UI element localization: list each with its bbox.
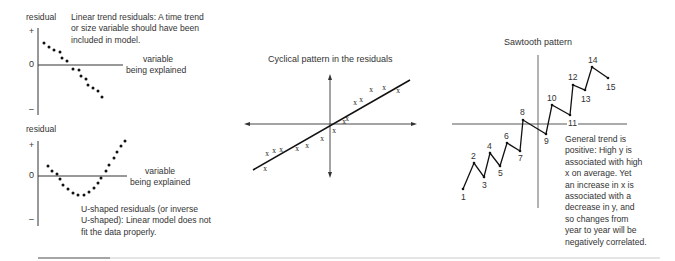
cyclical-residual-plot: xxx xxx xxx xxx xxx	[244, 74, 417, 178]
linear-xlabel-line1: variable	[143, 54, 173, 64]
point-label-7: 7	[518, 153, 523, 163]
ushaped-tick-minus: –	[29, 214, 34, 224]
point-label-12: 12	[568, 72, 578, 82]
sawtooth-title: Sawtooth pattern	[504, 37, 572, 47]
svg-text:x: x	[265, 149, 269, 158]
linear-tick-minus: –	[29, 104, 34, 114]
point-label-5: 5	[498, 168, 503, 178]
ushaped-ylabel: residual	[26, 124, 56, 134]
arrow-up-icon	[328, 74, 332, 80]
point-label-8: 8	[520, 107, 525, 117]
point-label-1: 1	[461, 192, 466, 202]
point-label-9: 9	[544, 136, 549, 146]
arrow-right-icon	[411, 122, 417, 126]
ushaped-xlabel-line2: being explained	[130, 177, 190, 187]
linear-xlabel-line2: being explained	[126, 65, 186, 75]
residual-points	[43, 42, 104, 99]
ushaped-tick-plus: +	[29, 140, 34, 150]
svg-text:x: x	[345, 114, 349, 123]
point-label-10: 10	[547, 93, 557, 103]
svg-text:x: x	[305, 141, 309, 150]
trend-line	[253, 80, 410, 170]
linear-tick-plus: +	[29, 26, 34, 36]
svg-text:x: x	[396, 86, 400, 95]
arrow-left-icon	[244, 122, 250, 126]
svg-text:x: x	[332, 126, 336, 135]
residual-points	[47, 140, 127, 197]
point-label-15: 15	[606, 82, 616, 92]
linear-tick-zero: 0	[29, 59, 34, 69]
point-label-14: 14	[588, 55, 598, 65]
svg-text:x: x	[295, 144, 299, 153]
svg-text:x: x	[359, 95, 363, 104]
svg-text:x: x	[263, 164, 267, 173]
svg-text:x: x	[382, 83, 386, 92]
svg-text:x: x	[369, 85, 373, 94]
point-label-4: 4	[487, 141, 492, 151]
svg-text:x: x	[279, 145, 283, 154]
svg-text:x: x	[320, 134, 324, 143]
sawtooth-caption: General trend is positive: High y is ass…	[565, 134, 647, 248]
point-label-6: 6	[504, 131, 509, 141]
svg-text:x: x	[272, 146, 276, 155]
linear-caption: Linear trend residuals: A time trend or …	[71, 12, 204, 46]
point-label-11: 11	[567, 118, 578, 128]
linear-ylabel: residual	[26, 12, 56, 22]
ushaped-tick-zero: 0	[29, 170, 34, 180]
point-label-13: 13	[581, 94, 591, 104]
x-markers: xxx xxx xxx xxx xxx	[263, 83, 400, 173]
point-label-2: 2	[471, 151, 476, 161]
ushaped-caption: U-shaped residuals (or inverse U-shaped)…	[81, 204, 211, 238]
cyclical-title: Cyclical pattern in the residuals	[268, 54, 393, 64]
point-label-3: 3	[482, 180, 487, 190]
svg-text:x: x	[353, 98, 357, 107]
ushaped-xlabel-line1: variable	[145, 166, 175, 176]
arrow-down-icon	[328, 172, 332, 178]
